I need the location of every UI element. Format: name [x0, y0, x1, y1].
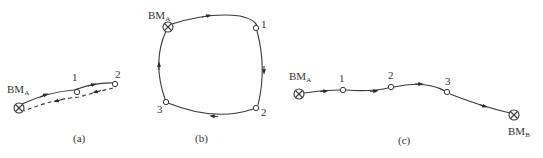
route-a-outbound	[22, 83, 114, 104]
caption-c: (c)	[398, 134, 411, 147]
diagram-a: BMA 1 2 (a)	[7, 68, 121, 145]
benchmark-c-start-label: BMA	[289, 70, 311, 84]
arrow-icon	[212, 116, 218, 117]
point-label: 3	[157, 103, 163, 115]
benchmark-b-icon	[163, 22, 173, 32]
arrow-icon	[88, 85, 94, 87]
caption-a: (a)	[73, 132, 86, 145]
route-a-return	[24, 88, 113, 111]
point-label: 1	[72, 71, 78, 83]
point-label: 2	[388, 69, 394, 81]
benchmark-b-label: BMA	[148, 9, 170, 23]
benchmark-a-label: BMA	[7, 83, 29, 97]
arrow-icon	[56, 100, 62, 102]
point-label: 1	[339, 72, 345, 84]
diagram-b: BMA 1 2 3 (b)	[148, 9, 267, 145]
point-2-a	[112, 81, 117, 86]
caption-b: (b)	[195, 132, 208, 145]
point-label: 1	[261, 18, 267, 30]
arrow-icon	[320, 91, 326, 92]
route-c	[304, 84, 510, 113]
point-label: 2	[115, 68, 121, 80]
point-2-c	[388, 84, 393, 89]
benchmark-c-start-icon	[294, 89, 304, 99]
point-1-c	[340, 87, 345, 92]
point-3-c	[444, 89, 449, 94]
diagram-c: BMA 1 2 3 BMB (c)	[289, 69, 530, 147]
benchmark-a-icon	[14, 103, 24, 113]
arrow-icon	[370, 91, 376, 92]
arrow-icon	[202, 16, 209, 18]
point-1-b	[253, 25, 258, 30]
route-b-loop	[159, 15, 263, 114]
point-1-a	[74, 89, 79, 94]
point-label: 3	[445, 75, 451, 87]
leveling-routes-figure: BMA 1 2 (a) BMA 1 2 3 (b)	[0, 0, 543, 158]
point-3-b	[163, 99, 168, 104]
point-2-b	[253, 105, 258, 110]
arrow-icon	[95, 91, 101, 93]
benchmark-c-end-icon	[509, 110, 519, 120]
point-label: 2	[261, 106, 267, 118]
benchmark-c-end-label: BMB	[508, 125, 530, 139]
